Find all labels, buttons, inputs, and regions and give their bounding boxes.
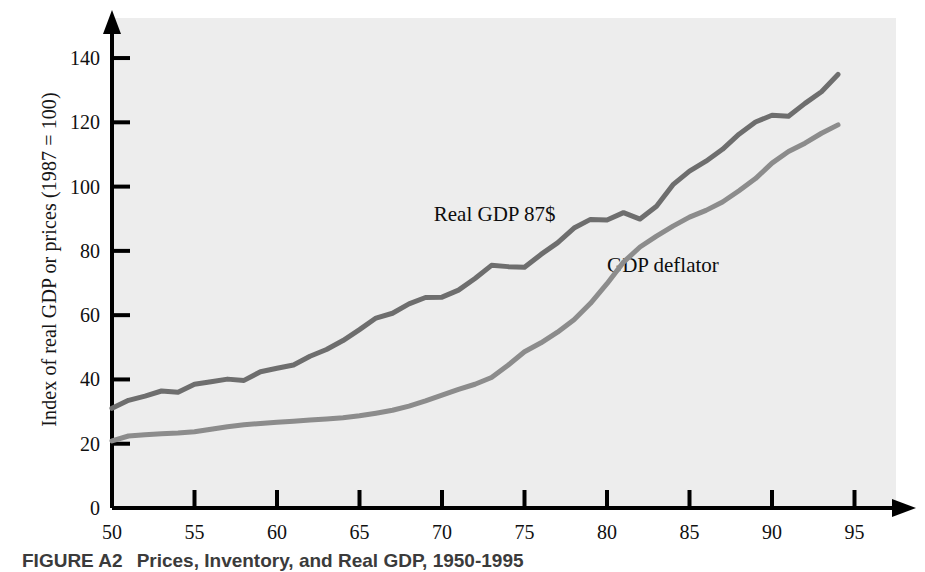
y-axis-arrowhead — [103, 10, 121, 34]
series-layer — [112, 74, 838, 440]
figure-caption-number: FIGURE A2 — [22, 550, 123, 571]
axis-layer — [103, 10, 916, 517]
figure-caption-text: Prices, Inventory, and Real GDP, 1950-19… — [137, 550, 524, 571]
series-line-real-gdp — [112, 74, 838, 408]
series-line-gdp-deflator — [112, 125, 838, 441]
figure-caption: FIGURE A2Prices, Inventory, and Real GDP… — [22, 550, 524, 572]
x-axis-arrowhead — [892, 499, 916, 517]
